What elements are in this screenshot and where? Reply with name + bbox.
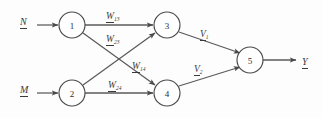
edge-node-4-to-node-5 [179,67,240,86]
weight-v1-subscript: 1 [206,34,209,40]
output-y-label: Y [302,52,308,68]
weight-w14-label: W14 [132,56,146,73]
node-3-label: 3 [165,21,170,31]
weight-w24-symbol: W [108,80,116,92]
input-m-label: M [20,80,28,96]
weight-w23-subscript: 23 [114,39,120,45]
weight-w24-label: W24 [108,75,122,92]
weight-w13-symbol: W [106,11,114,23]
node-4-label: 4 [165,89,170,99]
network-graph-canvas: 1 2 3 4 5 [0,0,322,118]
input-n-label: N [20,12,27,28]
input-n-symbol: N [20,16,27,29]
node-1-label: 1 [70,21,75,31]
node-5-label: 5 [248,56,253,66]
neural-network-figure: 1 2 3 4 5 N M W13 W23 W14 W24 V1 V2 Y [0,0,322,118]
weight-v2-subscript: 2 [200,69,203,75]
node-2-label: 2 [70,89,75,99]
weight-w24-subscript: 24 [116,85,122,91]
weight-w13-label: W13 [106,6,120,23]
weight-w13-subscript: 13 [114,16,120,22]
weight-v1-label: V1 [200,24,209,41]
edge-node-3-to-node-5 [179,32,240,53]
weight-w23-label: W23 [106,29,120,46]
weight-w14-symbol: W [132,61,140,73]
weight-w23-symbol: W [106,34,114,46]
output-y-symbol: Y [302,56,308,69]
weight-w14-subscript: 14 [140,66,146,72]
weight-v2-label: V2 [194,59,203,76]
input-m-symbol: M [20,84,28,97]
